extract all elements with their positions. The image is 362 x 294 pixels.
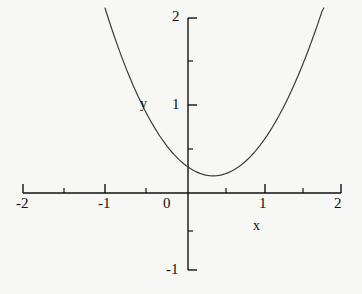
x-tick-label-two: 2 <box>334 196 342 211</box>
y-axis-name-label: y <box>140 97 147 111</box>
x-tick-label-neg2: -2 <box>16 196 29 211</box>
x-tick-label-one: 1 <box>259 196 267 211</box>
plot-canvas <box>0 0 362 294</box>
y-axis-major-ticks <box>188 18 197 270</box>
x-axis-minor-ticks <box>64 188 303 193</box>
parabola-curve <box>105 8 324 176</box>
y-tick-label-neg1: -1 <box>166 262 179 277</box>
y-tick-label-two: 2 <box>172 9 180 24</box>
x-tick-label-zero: 0 <box>163 196 171 211</box>
x-axis-name-label: x <box>253 219 260 233</box>
plot-figure: -2 -1 0 1 2 2 1 -1 y x <box>0 0 362 294</box>
x-axis-major-ticks <box>23 184 341 193</box>
x-tick-label-neg1: -1 <box>98 196 111 211</box>
y-axis-minor-ticks <box>188 61 193 231</box>
y-tick-label-one: 1 <box>172 97 180 112</box>
